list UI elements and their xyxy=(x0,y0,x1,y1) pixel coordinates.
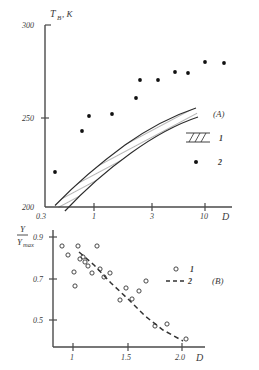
panel-a-series-1-band xyxy=(40,95,210,220)
panel-a: T B , K 250 300 200 0.3 1 3 10 D xyxy=(21,8,232,222)
panel-b-data-point xyxy=(184,337,188,341)
panel-b-y-axis-label: Y Y max xyxy=(17,224,34,248)
panel-a-data-point xyxy=(87,114,91,118)
panel-a-data-point xyxy=(222,61,226,65)
panel-a-data-point xyxy=(203,60,207,64)
panel-b-y-ticklabel-0p9: 0.9 xyxy=(33,233,43,242)
panel-b-data-point xyxy=(118,298,122,302)
panel-b-x-ticklabel-2p0: 2.0 xyxy=(175,353,185,362)
panel-a-y-axis-unit: , K xyxy=(62,9,74,19)
panel-b-y-axis-numerator: Y xyxy=(20,224,26,234)
panel-b-legend: 1 2 xyxy=(166,265,194,286)
panel-b-data-point xyxy=(83,260,87,264)
panel-b-legend-item-1: 1 xyxy=(174,265,194,274)
panel-a-band-lower-boundary xyxy=(65,117,198,211)
panel-a-y-ticklabel-300: 300 xyxy=(21,21,34,30)
panel-a-x-ticklabel-1: 1 xyxy=(92,212,96,221)
panel-a-y-ticklabel-200: 200 xyxy=(22,203,34,212)
panel-a-legend-label-2: 2 xyxy=(217,158,222,167)
panel-b-data-point xyxy=(95,244,99,248)
panel-a-y-axis-label: T B , K xyxy=(50,8,74,22)
panel-a-legend: 1 2 xyxy=(186,133,223,167)
panel-b-x-axis-label: D xyxy=(195,352,204,363)
panel-b-x-ticklabel-1: 1 xyxy=(70,353,74,362)
panel-a-label: (A) xyxy=(213,109,225,119)
panel-a-data-point xyxy=(186,71,190,75)
panel-b-data-point xyxy=(60,244,64,248)
panel-b-data-point xyxy=(66,253,70,257)
panel-a-series-2-points xyxy=(53,60,226,174)
panel-a-y-ticklabel-300x: 250 xyxy=(22,114,34,123)
panel-a-x-axis-label: D xyxy=(221,211,230,222)
hatched-band-swatch-icon xyxy=(186,133,210,142)
panel-a-data-point xyxy=(138,78,142,82)
panel-a-data-point xyxy=(156,78,160,82)
panel-b-data-point xyxy=(72,270,76,274)
panel-b-x-ticklabel-1p5: 1.5 xyxy=(121,353,131,362)
panel-b-label: (B) xyxy=(212,276,224,286)
panel-a-legend-label-1: 1 xyxy=(219,134,223,143)
panel-b-data-point xyxy=(144,279,148,283)
panel-b-legend-item-2: 2 xyxy=(166,277,192,286)
panel-a-data-point xyxy=(53,170,57,174)
panel-a-legend-item-2: 2 xyxy=(194,158,222,167)
panel-a-data-point xyxy=(110,112,114,116)
panel-a-y-axis-symbol: T xyxy=(50,8,57,19)
panel-b-legend-label-1: 1 xyxy=(190,265,194,274)
panel-b-series-2-dashed-line xyxy=(79,252,183,341)
panel-b: Y Y max 0.9 0.7 0.5 1 1.5 2.0 D xyxy=(17,224,224,363)
panel-b-data-point xyxy=(86,264,90,268)
panel-a-legend-item-1: 1 xyxy=(186,133,223,143)
panel-b-y-axis-denominator-subscript: max xyxy=(23,241,34,248)
panel-a-x-ticklabel-0p3: 0.3 xyxy=(36,212,46,221)
panel-b-data-point xyxy=(108,271,112,275)
filled-dot-icon xyxy=(194,160,198,164)
panel-b-y-ticklabel-0p5: 0.5 xyxy=(33,316,43,325)
panel-a-data-point xyxy=(80,129,84,133)
panel-b-x-ticks: 1 1.5 2.0 D xyxy=(70,343,204,363)
panel-b-data-point xyxy=(124,286,128,290)
panel-b-y-ticklabel-0p7: 0.7 xyxy=(33,275,44,284)
panel-b-data-point xyxy=(90,271,94,275)
panel-b-data-point xyxy=(73,284,77,288)
panel-b-data-point xyxy=(76,244,80,248)
panel-a-data-point xyxy=(173,70,177,74)
panel-b-data-point xyxy=(130,297,134,301)
panel-b-data-point xyxy=(165,322,169,326)
panel-a-x-ticklabel-3: 3 xyxy=(149,212,154,221)
panel-a-data-point xyxy=(134,96,138,100)
open-circle-icon xyxy=(174,267,178,271)
panel-a-x-ticklabel-10: 10 xyxy=(200,212,208,221)
panel-b-data-point xyxy=(137,289,141,293)
panel-b-series-1-points xyxy=(60,244,188,341)
figure-root: T B , K 250 300 200 0.3 1 3 10 D xyxy=(0,0,259,370)
panel-b-legend-label-2: 2 xyxy=(187,277,192,286)
